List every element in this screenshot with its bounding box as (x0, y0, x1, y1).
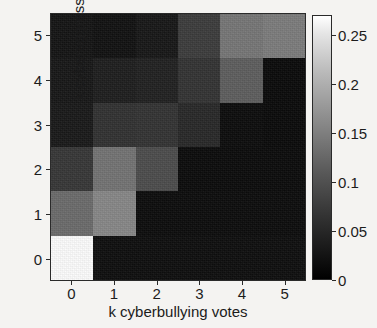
heatmap-figure: 012345 012345 k cyberbullying votes k cy… (0, 0, 377, 328)
heatmap-cell (263, 58, 305, 102)
heatmap-cell (178, 236, 220, 280)
heatmap-cell (51, 147, 93, 191)
heatmap-cell (93, 191, 135, 235)
colorbar-gradient (313, 16, 331, 279)
colorbar-tick-mark (332, 280, 336, 281)
heatmap-cell (220, 14, 262, 58)
heatmap-plot-area (50, 13, 306, 281)
heatmap-cell (263, 236, 305, 280)
x-axis-label: k cyberbullying votes (50, 303, 306, 320)
heatmap-cell (178, 14, 220, 58)
colorbar-tick-label: 0 (338, 273, 346, 288)
colorbar-tick-mark (332, 182, 336, 183)
heatmap-cell (220, 236, 262, 280)
heatmap-cell (178, 147, 220, 191)
heatmap-cell (93, 58, 135, 102)
heatmap-cell (263, 103, 305, 147)
y-tick-mark (46, 259, 50, 260)
y-tick-mark (46, 125, 50, 126)
x-tick-label: 3 (195, 286, 203, 301)
y-axis-label-container: k cyberaggression votes (69, 0, 87, 153)
x-tick-label: 4 (238, 286, 246, 301)
heatmap-cell (178, 191, 220, 235)
y-tick-label: 0 (34, 251, 42, 266)
colorbar-tick-label: 0.15 (338, 125, 367, 140)
heatmap-cell (93, 236, 135, 280)
x-tick-label: 1 (110, 286, 118, 301)
heatmap-cell (136, 14, 178, 58)
x-tick-label: 2 (152, 286, 160, 301)
x-tick-label: 5 (280, 286, 288, 301)
y-tick-label: 1 (34, 207, 42, 222)
heatmap-cell (93, 147, 135, 191)
colorbar-tick-mark (332, 133, 336, 134)
y-tick-mark (46, 214, 50, 215)
colorbar-tick-label: 0.1 (338, 174, 359, 189)
heatmap-cell (51, 236, 93, 280)
heatmap-cell (263, 14, 305, 58)
colorbar (312, 15, 332, 280)
heatmap-cell (93, 103, 135, 147)
heatmap-cell (136, 191, 178, 235)
heatmap-grid (51, 14, 305, 280)
heatmap-cell (136, 103, 178, 147)
heatmap-cell (263, 147, 305, 191)
y-axis-label: k cyberaggression votes (70, 0, 87, 100)
colorbar-tick-mark (332, 35, 336, 36)
heatmap-cell (51, 191, 93, 235)
heatmap-cell (263, 191, 305, 235)
colorbar-tick-label: 0.2 (338, 76, 359, 91)
heatmap-cell (136, 236, 178, 280)
heatmap-cell (178, 58, 220, 102)
colorbar-tick-label: 0.25 (338, 27, 367, 42)
y-tick-label: 4 (34, 73, 42, 88)
y-tick-mark (46, 80, 50, 81)
heatmap-cell (220, 191, 262, 235)
x-tick-label: 0 (67, 286, 75, 301)
heatmap-cell (220, 103, 262, 147)
heatmap-cell (220, 58, 262, 102)
y-tick-label: 5 (34, 28, 42, 43)
y-tick-label: 2 (34, 162, 42, 177)
heatmap-cell (220, 147, 262, 191)
heatmap-cell (136, 147, 178, 191)
y-tick-mark (46, 35, 50, 36)
colorbar-tick-mark (332, 84, 336, 85)
heatmap-cell (93, 14, 135, 58)
y-tick-label: 3 (34, 117, 42, 132)
y-tick-mark (46, 169, 50, 170)
colorbar-tick-mark (332, 231, 336, 232)
heatmap-cell (136, 58, 178, 102)
heatmap-cell (178, 103, 220, 147)
colorbar-tick-label: 0.05 (338, 223, 367, 238)
